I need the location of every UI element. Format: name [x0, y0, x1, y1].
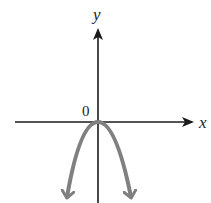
- graph-canvas: y x 0: [0, 0, 211, 203]
- origin-label: 0: [82, 103, 90, 119]
- parabola-graph: y x 0: [0, 0, 211, 203]
- parabola-left-branch: [67, 122, 98, 197]
- parabola-right-branch: [98, 122, 131, 197]
- y-axis-label: y: [91, 5, 101, 24]
- x-axis-label: x: [198, 113, 207, 132]
